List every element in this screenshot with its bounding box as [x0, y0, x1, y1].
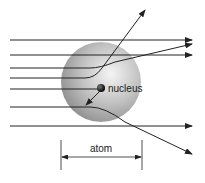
- rutherford-diagram: nucleus atom: [0, 0, 205, 183]
- nucleus-dot: [97, 84, 105, 92]
- atom-label: atom: [90, 143, 112, 154]
- nucleus-label: nucleus: [108, 83, 142, 94]
- atom-sphere: [61, 42, 141, 122]
